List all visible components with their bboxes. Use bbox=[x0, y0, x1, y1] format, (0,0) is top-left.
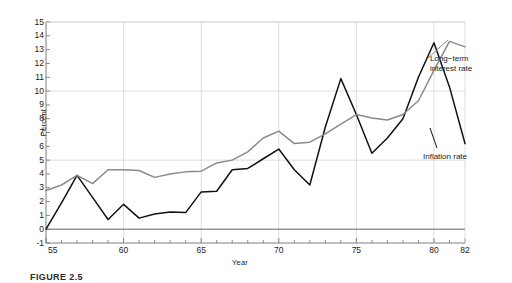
figure-caption: FIGURE 2.5 bbox=[30, 272, 83, 282]
x-tick-label: 75 bbox=[352, 246, 361, 255]
x-axis-title: Year bbox=[232, 258, 248, 267]
x-tick-label: 80 bbox=[429, 246, 438, 255]
x-axis-tick-labels: 55606570758082 bbox=[0, 0, 512, 283]
x-tick-label: 65 bbox=[196, 246, 205, 255]
figure-container: Percent -10123456789101112131415 5560657… bbox=[0, 0, 512, 283]
x-tick-label: 70 bbox=[274, 246, 283, 255]
inflation-rate-label: Inflation rate bbox=[423, 152, 467, 162]
x-tick-label: 55 bbox=[48, 246, 57, 255]
x-tick-label: 82 bbox=[460, 246, 469, 255]
x-tick-label: 60 bbox=[119, 246, 128, 255]
long-term-interest-rate-label: Long−term interest rate bbox=[430, 54, 472, 74]
